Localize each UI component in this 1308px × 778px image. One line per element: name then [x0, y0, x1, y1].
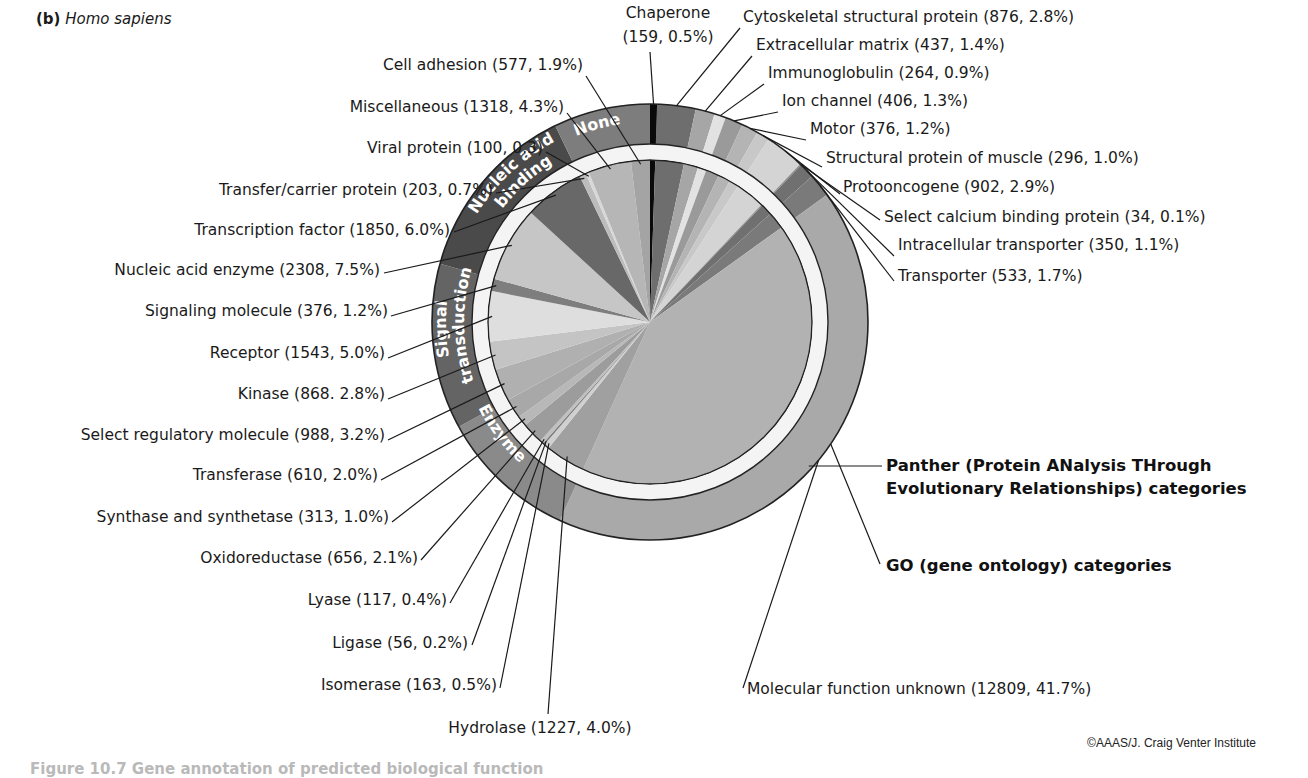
slice-label: Ligase (56, 0.2%)	[332, 634, 468, 652]
slice-value: (159, 0.5%)	[623, 28, 714, 46]
slice-label: Structural protein of muscle (296, 1.0%)	[826, 149, 1139, 167]
slice-label: Molecular function unknown (12809, 41.7%…	[747, 680, 1091, 698]
ring-series-labels: Panther (Protein ANalysis THroughEvoluti…	[809, 444, 1247, 575]
slice-label: Viral protein (100, 0.3)	[367, 139, 543, 157]
slice-label: Chaperone	[626, 4, 710, 22]
slice-label: Nucleic acid enzyme (2308, 7.5%)	[114, 261, 380, 279]
panther-inner-pie	[488, 160, 812, 484]
slice-label: Select calcium binding protein (34, 0.1%…	[884, 208, 1206, 226]
slice-label: Hydrolase (1227, 4.0%)	[448, 719, 631, 737]
slice-label: Protooncogene (902, 2.9%)	[843, 178, 1055, 196]
slice-label: Signaling molecule (376, 1.2%)	[145, 302, 388, 320]
slice-label: Transcription factor (1850, 6.0%)	[193, 221, 450, 239]
slice-label: Transferase (610, 2.0%)	[192, 466, 378, 484]
slice-label: Lyase (117, 0.4%)	[308, 591, 447, 609]
slice-label: Oxidoreductase (656, 2.1%)	[200, 549, 418, 567]
slice-label: Receptor (1543, 5.0%)	[210, 344, 385, 362]
slice-label: Cell adhesion (577, 1.9%)	[383, 56, 583, 74]
slice-label: Select regulatory molecule (988, 3.2%)	[81, 426, 385, 444]
slice-label: Kinase (868. 2.8%)	[238, 385, 385, 403]
slice-label: Intracellular transporter (350, 1.1%)	[898, 236, 1179, 254]
slice-label: Ion channel (406, 1.3%)	[782, 92, 968, 110]
slice-label: Extracellular matrix (437, 1.4%)	[756, 36, 1005, 54]
slice-label: Isomerase (163, 0.5%)	[321, 676, 497, 694]
panther-series-label-line2: Evolutionary Relationships) categories	[886, 479, 1247, 498]
slice-label: Transporter (533, 1.7%)	[897, 267, 1082, 285]
leader-line	[720, 84, 764, 116]
leader-line	[705, 56, 752, 111]
leader-line	[734, 112, 778, 121]
slice-label: Miscellaneous (1318, 4.3%)	[350, 98, 564, 116]
go-series-label: GO (gene ontology) categories	[886, 556, 1172, 575]
slice-label: Synthase and synthetase (313, 1.0%)	[97, 508, 389, 526]
slice-label: Motor (376, 1.2%)	[810, 120, 951, 138]
leader-line	[650, 52, 654, 104]
figure-caption-fragment: Figure 10.7 Gene annotation of predicted…	[30, 760, 543, 778]
image-credit: ©AAAS/J. Craig Venter Institute	[1087, 736, 1256, 750]
slice-label: Cytoskeletal structural protein (876, 2.…	[743, 8, 1074, 26]
slice-label: Transfer/carrier protein (203, 0.7%)	[218, 181, 493, 199]
slice-label: Immunoglobulin (264, 0.9%)	[768, 64, 989, 82]
panther-series-label: Panther (Protein ANalysis THrough	[886, 456, 1212, 475]
